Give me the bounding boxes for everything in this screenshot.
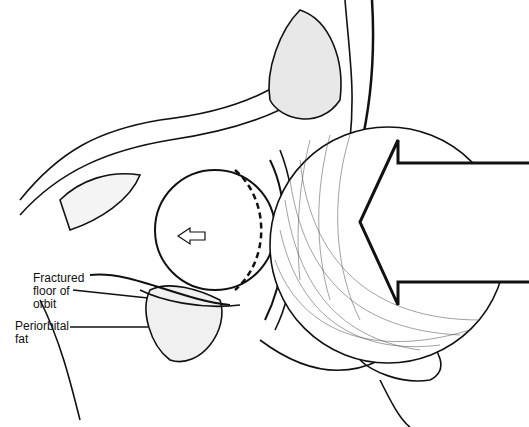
label-line: fat [15, 333, 69, 346]
label-periorbital-fat: Periorbital fat [15, 320, 69, 346]
label-line: orbit [33, 298, 84, 311]
orbital-fracture-diagram: Fractured floor of orbit Periorbital fat [0, 0, 529, 427]
label-fractured-floor: Fractured floor of orbit [33, 272, 84, 311]
anatomical-drawing [0, 0, 529, 427]
